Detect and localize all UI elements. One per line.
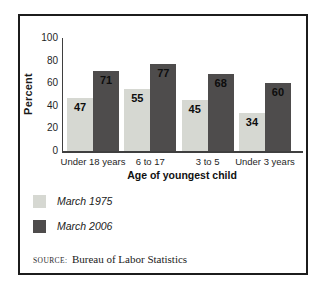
source-line: SOURCE: Bureau of Labor Statistics	[33, 249, 187, 267]
y-tick-label: 80	[20, 55, 58, 66]
bar-march-1975: 34	[239, 113, 265, 151]
legend-swatch-march-2006	[33, 220, 46, 233]
bar-value-label: 34	[239, 116, 265, 128]
source-prefix: SOURCE:	[33, 256, 67, 265]
bar-value-label: 77	[150, 67, 176, 79]
legend-label-march-1975: March 1975	[57, 195, 112, 207]
y-tick-label: 0	[20, 145, 58, 156]
legend-item-march-2006: March 2006	[33, 219, 112, 233]
bar-march-1975: 45	[182, 100, 208, 151]
y-axis-tick-labels: 020406080100	[20, 38, 58, 151]
bar-march-2006: 68	[208, 74, 234, 151]
y-tick-label: 40	[20, 100, 58, 111]
bar-value-label: 60	[265, 86, 291, 98]
bar-march-1975: 47	[67, 98, 93, 151]
bar-group: 4771Under 18 years	[67, 38, 119, 151]
legend: March 1975 March 2006	[33, 194, 112, 244]
bar-group: 55776 to 17	[124, 38, 176, 151]
bar-march-2006: 71	[93, 71, 119, 151]
bar-groups: 4771Under 18 years55776 to 1745683 to 53…	[63, 38, 303, 151]
source-text: Bureau of Labor Statistics	[72, 253, 187, 265]
legend-label-march-2006: March 2006	[57, 220, 112, 232]
x-tick-label: Under 18 years	[61, 156, 126, 167]
bar-group: 45683 to 5	[182, 38, 234, 151]
bar-march-2006: 77	[150, 64, 176, 151]
y-tick-label: 60	[20, 77, 58, 88]
bar-march-1975: 55	[124, 89, 150, 151]
x-tick-label: 3 to 5	[196, 156, 220, 167]
bar-value-label: 68	[208, 77, 234, 89]
y-tick-label: 20	[20, 122, 58, 133]
plot-area: 4771Under 18 years55776 to 1745683 to 53…	[62, 38, 303, 153]
figure-frame: Percent 020406080100 4771Under 18 years5…	[18, 14, 308, 275]
bar-value-label: 47	[67, 101, 93, 113]
y-tick-label: 100	[20, 32, 58, 43]
legend-swatch-march-1975	[33, 195, 46, 208]
x-axis-title: Age of youngest child	[62, 169, 302, 181]
bar-march-2006: 60	[265, 83, 291, 151]
x-tick-label: 6 to 17	[136, 156, 165, 167]
bar-group: 3460Under 3 years	[239, 38, 291, 151]
legend-item-march-1975: March 1975	[33, 194, 112, 208]
bar-value-label: 71	[93, 74, 119, 86]
x-tick-label: Under 3 years	[235, 156, 295, 167]
bar-value-label: 45	[182, 103, 208, 115]
bar-value-label: 55	[124, 92, 150, 104]
